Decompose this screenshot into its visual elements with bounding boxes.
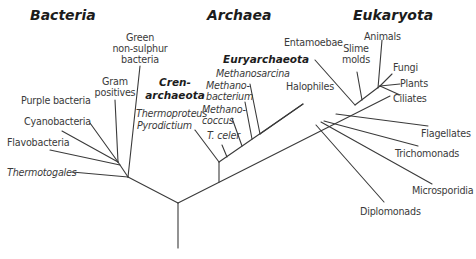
methanobacterium-branch	[245, 102, 252, 139]
leaf-methanococcus: Methano- coccus	[202, 104, 246, 126]
leaf-ciliates: Ciliates	[393, 93, 427, 104]
plants-branch	[380, 84, 400, 86]
slime-molds-branch	[357, 72, 362, 100]
gram-positives-branch	[115, 100, 118, 162]
leaf-t-celer: T. celer	[207, 130, 240, 141]
leaf-entamoebae: Entamoebae	[284, 37, 343, 48]
label-line: positives	[92, 87, 138, 98]
label-line: bacterium	[206, 91, 253, 102]
label-line: Slime	[337, 43, 375, 54]
label-line: Methano-	[206, 80, 253, 91]
cyanobacteria-branch	[62, 131, 118, 162]
subgroup-euryarchaeota: Euryarchaeota	[223, 53, 309, 66]
halophiles-branch	[260, 104, 303, 134]
crenarchaeota-line-1: Cren-	[140, 76, 210, 89]
label-line: bacteria	[108, 54, 172, 65]
crown-eukarya-stem	[355, 86, 380, 105]
fungi-branch	[380, 74, 392, 86]
leaf-diplomonads: Diplomonads	[360, 206, 421, 217]
leaf-flagellates: Flagellates	[421, 128, 471, 139]
leaf-purple-bacteria: Purple bacteria	[21, 95, 91, 106]
diplomonads-branch	[316, 125, 384, 202]
bacteria-inner-stem	[118, 162, 128, 177]
leaf-slime-molds: Slime molds	[337, 43, 375, 65]
trichomonads-branch	[324, 121, 418, 146]
leaf-cyanobacteria: Cyanobacteria	[24, 116, 91, 127]
thermotogales-branch	[72, 172, 128, 177]
crenarchaeota-line-2: archaeota	[140, 89, 210, 102]
label-line: non-sulphur	[108, 43, 172, 54]
label-line: Methano-	[202, 104, 246, 115]
leaf-methanosarcina: Methanosarcina	[216, 68, 290, 79]
label-line: molds	[337, 54, 375, 65]
leaf-pyrodictium: Pyrodictium	[137, 120, 192, 131]
leaf-gram-positives: Gram positives	[92, 76, 138, 98]
label-line: Gram	[92, 76, 138, 87]
subgroup-crenarchaeota: Cren- archaeota	[140, 76, 210, 102]
leaf-plants: Plants	[400, 78, 428, 89]
bacteria-stem	[128, 177, 178, 203]
leaf-thermoproteus: Thermoproteus	[136, 108, 207, 119]
leaf-thermotogales: Thermotogales	[7, 167, 77, 178]
label-line: coccus	[202, 115, 246, 126]
domain-archaea: Archaea	[207, 7, 271, 23]
leaf-green-nonsulphur-bacteria: Green non-sulphur bacteria	[108, 32, 172, 65]
leaf-halophiles: Halophiles	[286, 81, 334, 92]
leaf-trichomonads: Trichomonads	[395, 148, 459, 159]
label-line: Green	[108, 32, 172, 43]
animals-branch	[378, 40, 382, 88]
leaf-animals: Animals	[364, 31, 401, 42]
tceler-branch	[222, 145, 227, 157]
leaf-fungi: Fungi	[393, 62, 418, 73]
leaf-flavobacteria: Flavobacteria	[7, 137, 69, 148]
purple-bacteria-branch	[90, 123, 118, 162]
leaf-methanobacterium: Methano- bacterium	[206, 80, 253, 102]
domain-eukaryota: Eukaryota	[353, 7, 433, 23]
flagellates-branch	[336, 114, 428, 126]
domain-bacteria: Bacteria	[30, 7, 96, 23]
leaf-microsporidia: Microsporidia	[412, 185, 473, 196]
